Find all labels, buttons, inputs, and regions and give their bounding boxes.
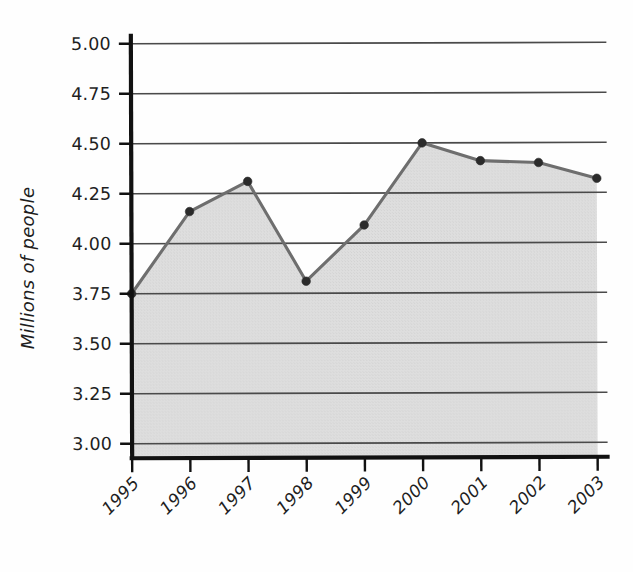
line-chart: 3.003.253.503.754.004.254.504.755.00 199…	[0, 0, 633, 572]
x-tick-label-1995: 1995	[98, 473, 144, 519]
y-tick-label-3.50: 3.50	[72, 334, 112, 354]
gridline-5.00	[131, 42, 606, 43]
y-tick-label-4.50: 4.50	[71, 134, 111, 154]
y-tick-label-5.00: 5.00	[71, 34, 111, 54]
area-fill	[131, 142, 597, 458]
y-axis-title: Millions of people	[17, 187, 38, 350]
data-point-2000	[418, 139, 427, 148]
x-tick-label-1999: 1999	[330, 472, 376, 518]
gridline-4.50	[131, 142, 606, 143]
data-point-1997	[243, 177, 252, 186]
x-tick-label-2002: 2002	[505, 472, 551, 518]
data-point-2001	[476, 156, 485, 165]
chart-figure: 3.003.253.503.754.004.254.504.755.00 199…	[0, 0, 633, 572]
y-tick-label-3.75: 3.75	[72, 284, 112, 304]
x-tick-label-1997: 1997	[214, 473, 260, 519]
data-point-1996	[185, 207, 194, 216]
x-axis	[130, 457, 610, 459]
y-tick-label-3.25: 3.25	[72, 384, 112, 404]
x-tick-label-1998: 1998	[272, 472, 318, 518]
x-tick-label-1996: 1996	[156, 473, 202, 519]
y-tick-label-4.25: 4.25	[72, 184, 112, 204]
y-tick-label-3.00: 3.00	[72, 434, 112, 454]
x-axis-tick-labels: 199519961997199819992000200120022003	[97, 471, 608, 518]
data-point-2002	[534, 158, 543, 167]
y-tick-label-4.00: 4.00	[72, 234, 112, 254]
y-axis-tick-labels: 3.003.253.503.754.004.254.504.755.00	[71, 34, 112, 454]
gridline-4.75	[131, 92, 606, 93]
x-tick-label-2001: 2001	[447, 472, 493, 518]
x-tick-label-2003: 2003	[563, 471, 609, 517]
y-axis	[131, 34, 132, 460]
data-point-1998	[302, 277, 311, 286]
y-tick-label-4.75: 4.75	[71, 84, 111, 104]
data-point-2003	[592, 174, 601, 183]
x-tick-label-2000: 2000	[388, 472, 434, 518]
data-point-1999	[360, 221, 369, 230]
